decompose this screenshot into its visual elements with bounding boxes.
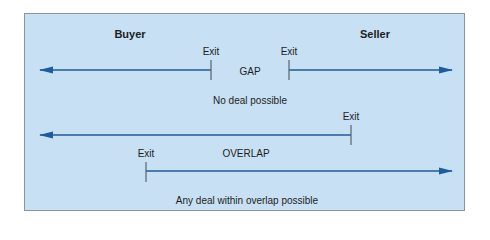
gap-buyer-arrow xyxy=(40,60,211,80)
gap-caption: No deal possible xyxy=(213,95,287,107)
overlap-seller-exit-label: Exit xyxy=(138,148,155,160)
overlap-seller-arrow xyxy=(146,162,452,182)
gap-zone-label: GAP xyxy=(239,66,260,78)
overlap-buyer-exit-label: Exit xyxy=(343,111,360,123)
gap-buyer-exit-label: Exit xyxy=(203,46,220,58)
gap-seller-arrow xyxy=(289,60,452,80)
overlap-zone-label: OVERLAP xyxy=(222,148,269,160)
seller-label: Seller xyxy=(360,28,390,40)
gap-seller-exit-label: Exit xyxy=(281,46,298,58)
overlap-caption: Any deal within overlap possible xyxy=(176,195,318,207)
buyer-label: Buyer xyxy=(114,28,145,40)
overlap-buyer-arrow xyxy=(40,125,351,145)
